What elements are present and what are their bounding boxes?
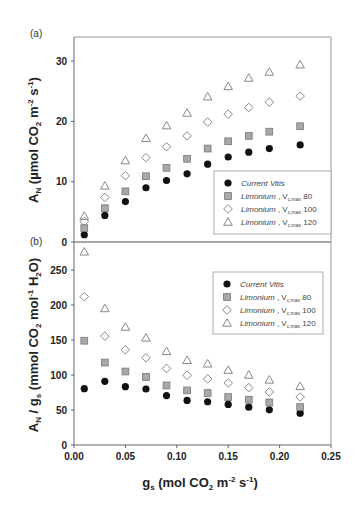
ylabel-b-t2: (mmol CO bbox=[26, 328, 41, 394]
panel-1-xtick-label: 0.25 bbox=[321, 451, 341, 462]
legend-species: Limonium bbox=[240, 293, 275, 302]
panel-1-point-series-0 bbox=[163, 392, 170, 399]
panel-1-xtick-label: 0.05 bbox=[116, 451, 136, 462]
legend-species: Current Vitis bbox=[240, 280, 284, 289]
panel-0-ytick-label: 20 bbox=[56, 116, 68, 127]
panel-1-ytick-label: 150 bbox=[50, 335, 67, 346]
panel-0-legend-label: Limonium , Vc,max 80 bbox=[241, 192, 313, 202]
legend-param: , V bbox=[276, 192, 289, 201]
panel-label-a: (a) bbox=[30, 28, 42, 39]
legend-param-sub: c,max bbox=[287, 323, 301, 329]
panel-0-point-series-3 bbox=[183, 109, 192, 117]
panel-0-point-series-0 bbox=[245, 149, 252, 156]
legend-species: Limonium bbox=[241, 192, 276, 201]
panel-1-legend-marker bbox=[223, 280, 230, 287]
panel-1-point-series-1 bbox=[81, 337, 88, 344]
panel-0-point-series-1 bbox=[297, 123, 304, 130]
panel-1-point-series-0 bbox=[204, 398, 211, 405]
panel-0-point-series-1 bbox=[163, 164, 170, 171]
panel-0-point-series-1 bbox=[266, 128, 273, 135]
panel-1-point-series-0 bbox=[245, 404, 252, 411]
ylabel-t4: ) bbox=[26, 77, 41, 81]
panel-0-ytick-label: 0 bbox=[61, 237, 67, 248]
panel-1-point-series-0 bbox=[225, 401, 232, 408]
panel-1-point-series-0 bbox=[101, 378, 108, 385]
legend-param-sub: c,max bbox=[288, 209, 302, 215]
panel-0-legend-label: Limonium , Vc,max 100 bbox=[241, 205, 317, 215]
panel-1-point-series-3 bbox=[121, 323, 130, 331]
panel-1-xtick-label: 0.00 bbox=[64, 451, 84, 462]
panel-0-ytick-label: 30 bbox=[56, 56, 68, 67]
panel-1-point-series-2 bbox=[224, 379, 233, 388]
panel-0-point-series-0 bbox=[122, 198, 129, 205]
panel-0-point-series-2 bbox=[296, 92, 305, 101]
legend-species: Current Vitis bbox=[241, 179, 285, 188]
panel-1-point-series-1 bbox=[266, 399, 273, 406]
plot-layer: 0102030Current VitisLimonium , Vc,max 80… bbox=[50, 37, 341, 462]
panel-1-point-series-1 bbox=[297, 404, 304, 411]
panel-0-point-series-0 bbox=[101, 212, 108, 219]
panel-0-point-series-0 bbox=[297, 141, 304, 148]
panel-1-point-series-1 bbox=[204, 390, 211, 397]
panel-0-point-series-0 bbox=[204, 161, 211, 168]
panel-1-legend-label: Limonium , Vc,max 100 bbox=[240, 306, 316, 316]
panel-0-point-series-3 bbox=[244, 74, 253, 82]
panel-0-point-series-0 bbox=[163, 177, 170, 184]
panel-0-point-series-1 bbox=[122, 188, 129, 195]
panel-0-point-series-2 bbox=[265, 98, 274, 107]
panel-1-point-series-2 bbox=[101, 332, 110, 341]
panel-1-legend-label: Limonium , Vc,max 120 bbox=[240, 319, 316, 329]
panel-0-point-series-1 bbox=[204, 145, 211, 152]
panel-1-point-series-3 bbox=[80, 248, 89, 256]
panel-1-point-series-2 bbox=[296, 393, 305, 402]
panel-1-point-series-1 bbox=[101, 359, 108, 366]
panel-0-point-series-0 bbox=[266, 145, 273, 152]
panel-1-point-series-0 bbox=[142, 385, 149, 392]
panel-0-point-series-3 bbox=[121, 156, 130, 164]
panel-1-xtick-label: 0.15 bbox=[218, 451, 238, 462]
panel-1-point-series-2 bbox=[244, 383, 253, 392]
panel-1-point-series-1 bbox=[225, 394, 232, 401]
legend-param: , V bbox=[275, 293, 288, 302]
panel-0-point-series-3 bbox=[101, 182, 110, 190]
ylabel-t2: m bbox=[26, 106, 41, 121]
panel-1-xtick-label: 0.20 bbox=[270, 451, 290, 462]
panel-1-point-series-0 bbox=[122, 383, 129, 390]
panel-1-legend-marker bbox=[224, 294, 231, 301]
legend-value: 80 bbox=[301, 192, 313, 201]
legend-param-sub: c,max bbox=[287, 297, 301, 303]
panel-1-legend-label: Current Vitis bbox=[240, 280, 284, 289]
panel-1-point-series-2 bbox=[183, 371, 192, 380]
legend-param-sub: c,max bbox=[288, 196, 302, 202]
panel-0-ytick-label: 10 bbox=[56, 176, 68, 187]
panel-1-point-series-3 bbox=[265, 376, 274, 384]
ylabel-b-t1: / g bbox=[26, 398, 41, 417]
panel-1-ytick-label: 200 bbox=[50, 300, 67, 311]
panel-1-point-series-2 bbox=[121, 346, 130, 355]
panel-0-point-series-2 bbox=[203, 118, 212, 127]
ylabel-t1: (µmol CO bbox=[26, 126, 41, 188]
panel-1-point-series-3 bbox=[203, 360, 212, 368]
panel-label-b: (b) bbox=[30, 236, 42, 247]
panel-0-point-series-3 bbox=[80, 212, 89, 220]
legend-param: , V bbox=[276, 205, 289, 214]
xlabel-t4: ) bbox=[253, 475, 257, 490]
panel-0-point-series-0 bbox=[81, 231, 88, 238]
panel-1-point-series-3 bbox=[101, 304, 110, 312]
panel-0-point-series-3 bbox=[142, 134, 151, 142]
bottom-y-axis-title: AN / gs (mmol CO2 mol-1 H2O) bbox=[26, 258, 43, 432]
panel-1-point-series-3 bbox=[162, 347, 171, 355]
panel-1-point-series-3 bbox=[244, 371, 253, 379]
panel-1-point-series-3 bbox=[142, 334, 151, 342]
panel-0-point-series-2 bbox=[101, 193, 110, 202]
panel-0-point-series-2 bbox=[162, 142, 171, 151]
panel-1-xtick-label: 0.10 bbox=[167, 451, 187, 462]
panel-0-legend-label: Current Vitis bbox=[241, 179, 285, 188]
panel-0-legend-label: Limonium , Vc,max 120 bbox=[241, 218, 317, 228]
panel-1-point-series-1 bbox=[122, 368, 129, 375]
panel-1-point-series-3 bbox=[183, 356, 192, 364]
panel-1-ytick-label: 50 bbox=[56, 405, 68, 416]
panel-1-point-series-1 bbox=[245, 396, 252, 403]
legend-value: 100 bbox=[301, 205, 317, 214]
legend-param-sub: c,max bbox=[288, 222, 302, 228]
